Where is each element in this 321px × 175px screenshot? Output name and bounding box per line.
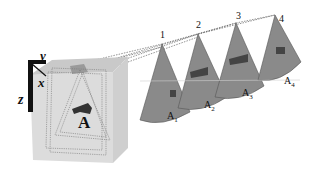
slice-label-4: A4 [284,75,295,89]
slice-cone-4 [258,15,301,81]
diagram-canvas: A y x z 1 2 3 4 A1 A2 A3 A4 [0,0,321,175]
slice-cone-3 [215,23,264,99]
slice-number-3: 3 [236,10,241,21]
slice-cone-1 [140,44,190,123]
volume-cube: A [30,57,128,163]
axis-z-label: z [17,92,24,107]
slice-number-2: 2 [196,19,201,30]
slice-number-4: 4 [279,13,284,24]
slice-number-1: 1 [160,29,165,40]
volume-label: A [78,113,91,132]
slice-cone-2 [178,34,227,110]
axis-y-label: y [38,48,46,63]
axis-x-label: x [37,75,45,90]
